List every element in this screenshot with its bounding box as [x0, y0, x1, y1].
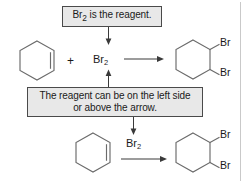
callout-placement-line-2: or above the arrow.: [39, 102, 190, 114]
pointer-callout-reagent-to-br2: [104, 27, 118, 47]
reaction-arrow-top: [124, 52, 166, 66]
callout-placement-text: The reagent can be on the left side or a…: [39, 90, 190, 114]
page-edge-rule: [240, 2, 241, 181]
reaction-arrow-bottom: [121, 152, 169, 166]
reagent-label-top: Br2: [93, 53, 108, 65]
substituent-label-br-bottom-upper: Br: [220, 128, 231, 140]
substituent-label-br-top-upper: Br: [220, 36, 231, 48]
callout-placement-note: The reagent can be on the left side or a…: [27, 87, 203, 117]
reagent-label-bottom: Br2: [126, 137, 141, 149]
pointer-callout-placement-to-br2-top: [104, 68, 118, 88]
substituent-label-br-bottom-lower: Br: [220, 159, 231, 171]
reaction-scheme-figure: Br2 is the reagent. + Br2 Br Br The reag…: [0, 0, 249, 183]
molecule-cyclohexene-bottom: [70, 130, 116, 176]
molecule-dibromocyclohexane-bottom: [172, 128, 220, 178]
callout-reagent-text: Br2 is the reagent.: [73, 9, 152, 24]
pointer-callout-placement-to-br2-bottom: [129, 117, 143, 137]
callout-placement-line-1: The reagent can be on the left side: [39, 90, 190, 102]
plus-sign-top: +: [67, 54, 74, 68]
substituent-label-br-top-lower: Br: [220, 66, 231, 78]
molecule-dibromocyclohexane-top: [172, 36, 220, 84]
molecule-cyclohexene-top: [14, 38, 60, 83]
callout-reagent-label: Br2 is the reagent.: [62, 6, 162, 27]
